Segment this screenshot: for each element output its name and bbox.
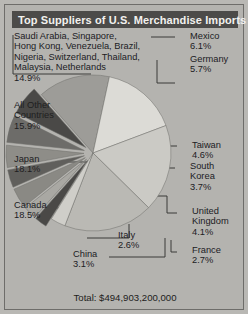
- slice-label-france: France 2.7%: [192, 245, 246, 266]
- total-container: Total: $494,903,200,000: [12, 289, 238, 305]
- slice-label-south-korea: South Korea 3.7%: [190, 161, 244, 192]
- page-title: Top Suppliers of U.S. Merchandise Import…: [12, 14, 246, 26]
- slice-label-japan: Japan 18.1%: [14, 154, 74, 175]
- chart-figure: Top Suppliers of U.S. Merchandise Import…: [4, 4, 244, 310]
- total-label: Total: $494,903,200,000: [74, 292, 177, 303]
- slice-label-united-kingdom: United Kingdom 4.1%: [192, 206, 246, 237]
- slice-label-germany: Germany 5.7%: [190, 54, 246, 75]
- slice-label-italy: Italy 2.6%: [118, 230, 158, 251]
- slice-label-china: China 3.1%: [73, 249, 121, 270]
- slice-label-all-other-countries: All Other Countries 15.9%: [14, 100, 84, 131]
- slice-label-other-named-group: Saudi Arabia, Singapore, Hong Kong, Vene…: [14, 31, 142, 83]
- slice-label-canada: Canada 18.5%: [14, 200, 74, 221]
- leader-line-france: [171, 240, 177, 252]
- leader-line-germany: [157, 60, 175, 83]
- slice-label-mexico: Mexico 6.1%: [190, 31, 246, 52]
- slice-label-taiwan: Taiwan 4.6%: [192, 140, 246, 161]
- chart-title-bar: Top Suppliers of U.S. Merchandise Import…: [12, 11, 238, 28]
